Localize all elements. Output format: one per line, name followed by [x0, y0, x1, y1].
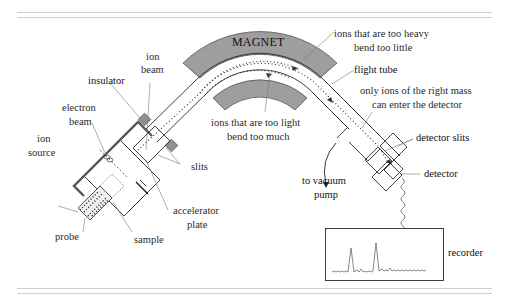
- electron-beam-label-line1: electron: [62, 102, 97, 113]
- heavy-ions-label-line1: ions that are too heavy: [334, 28, 430, 39]
- ion-source-label-line1: ion: [37, 133, 51, 144]
- light-ions-label-line1: ions that are too light: [211, 117, 300, 128]
- right-mass-label-line1: only ions of the right mass: [360, 85, 472, 96]
- detector-slits-label: detector slits: [416, 132, 469, 143]
- insulator-label: insulator: [88, 75, 125, 86]
- heavy-ions-label-line2: bend too little: [354, 42, 413, 53]
- ion-arrows: [266, 66, 392, 165]
- insulator-bottom: [165, 139, 178, 152]
- probe: [78, 174, 124, 220]
- detector-label: detector: [424, 168, 458, 179]
- accelerator-plate-label-line1: accelerator: [173, 205, 220, 216]
- sample-label: sample: [134, 234, 164, 245]
- flight-tube-label: flight tube: [354, 64, 398, 75]
- vacuum-pump-label-line1: to vacuum: [302, 175, 346, 186]
- electron-beam-label-line2: beam: [69, 116, 92, 127]
- probe-label: probe: [55, 231, 79, 242]
- vacuum-pump-label-line2: pump: [314, 189, 338, 200]
- top-rule: [17, 13, 492, 18]
- light-ions-label-line2: bend too much: [227, 131, 290, 142]
- recorder-label: recorder: [448, 247, 483, 258]
- slits-label: slits: [191, 161, 208, 172]
- ion-source-label-line2: source: [28, 147, 56, 158]
- electron-beam-filament: [100, 150, 128, 178]
- bottom-rule: [17, 289, 492, 294]
- magnet-label: MAGNET: [232, 35, 285, 49]
- accelerator-plate: [136, 182, 148, 194]
- ion-beam-label-line2: beam: [141, 64, 164, 75]
- right-mass-label-line2: can enter the detector: [372, 99, 463, 110]
- recorder-box: [326, 229, 444, 281]
- magnet-inner: [213, 80, 307, 110]
- detector-wire: [401, 178, 405, 232]
- detector: [372, 160, 403, 191]
- ion-beam-label-line1: ion: [146, 51, 160, 62]
- accelerator-plate-label-line2: plate: [187, 219, 208, 230]
- mass-spectrometer-diagram: MAGNET: [0, 0, 508, 303]
